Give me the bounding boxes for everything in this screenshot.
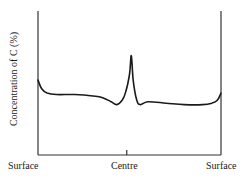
y-axis-label: Concentration of C (%) xyxy=(8,24,22,134)
x-tick-label-surface-right: Surface xyxy=(206,160,237,171)
chart: Concentration of C (%) Surface Centre Su… xyxy=(0,0,246,182)
x-tick-label-surface-left: Surface xyxy=(8,160,39,171)
data-series-line xyxy=(38,56,221,105)
axes-frame xyxy=(38,11,221,155)
plot-area xyxy=(0,0,246,182)
x-tick-label-centre: Centre xyxy=(111,160,138,171)
